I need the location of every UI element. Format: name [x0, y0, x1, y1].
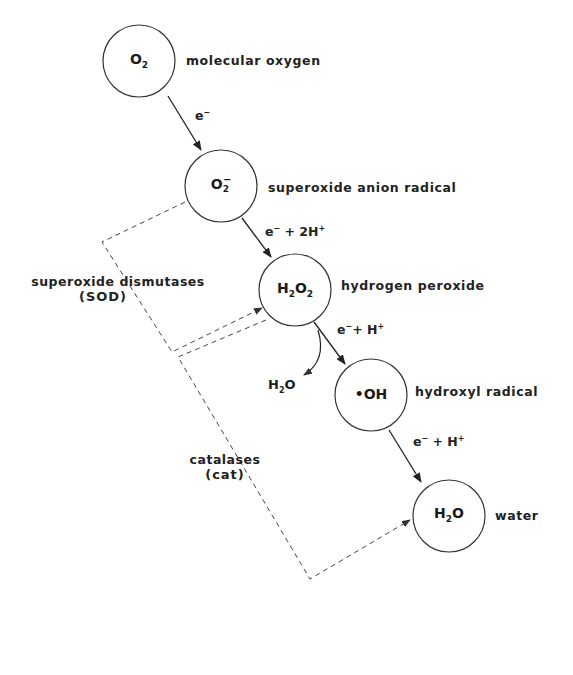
reagent-step-2: e− + 2H+	[265, 224, 325, 239]
enzyme-abbr: (cat)	[180, 467, 270, 482]
enzyme-name: catalases	[190, 452, 261, 467]
node-superoxide: O2−	[186, 174, 256, 194]
label-superoxide-anion-radical: superoxide anion radical	[268, 180, 456, 195]
enzyme-sod: superoxide dismutases (SOD)	[28, 274, 208, 304]
label-water: water	[495, 508, 539, 523]
formula-part: H	[268, 377, 279, 392]
formula: •OH	[355, 386, 388, 402]
reagent-step-1: e−	[195, 108, 210, 123]
formula-part: H	[434, 505, 446, 521]
reagent-step-3: e−+ H+	[337, 322, 384, 337]
formula-part: O	[452, 505, 464, 521]
formula-sub: 2	[307, 289, 313, 299]
node-o2: O2	[104, 51, 174, 70]
formula-sub: 2	[142, 60, 148, 70]
formula-sub: 2	[223, 184, 229, 194]
reagent-sup: +	[377, 322, 384, 331]
label-hydrogen-peroxide: hydrogen peroxide	[341, 278, 485, 293]
reagent-sup: −	[203, 108, 210, 117]
enzyme-name: superoxide dismutases	[31, 274, 205, 289]
reagent-sup: +	[319, 224, 326, 233]
enzyme-catalase: catalases (cat)	[180, 452, 270, 482]
node-h2o2: H2O2	[260, 280, 330, 299]
formula-sup: −	[223, 174, 231, 185]
formula-base: O	[211, 176, 223, 192]
reagent-step-4: e− + H+	[413, 434, 465, 449]
formula-base: O	[130, 51, 142, 67]
label-hydroxyl-radical: hydroxyl radical	[415, 384, 538, 399]
reagent-rest: + H	[352, 322, 377, 337]
formula-part: O	[284, 377, 295, 392]
node-hydroxyl: •OH	[336, 386, 406, 402]
reagent-rest: + H	[428, 434, 458, 449]
reagent-rest: + 2H	[280, 224, 318, 239]
pathway-diagram	[0, 0, 573, 675]
enzyme-abbr: (SOD)	[0, 289, 208, 304]
reagent-sup: +	[458, 434, 465, 443]
formula-part: O	[295, 280, 307, 296]
formula-part: H	[277, 280, 289, 296]
side-product-h2o: H2O	[268, 377, 296, 395]
node-water: H2O	[414, 505, 484, 524]
arrow-side-product-h2o	[304, 330, 321, 375]
label-molecular-oxygen: molecular oxygen	[186, 53, 321, 68]
